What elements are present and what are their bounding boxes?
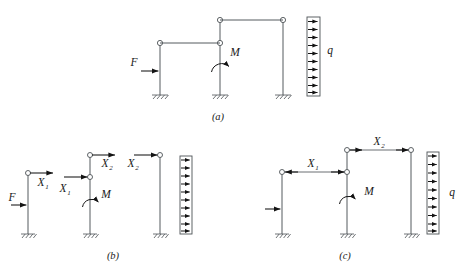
hinge-joint (345, 148, 350, 153)
support-fixed-a2 (212, 95, 229, 99)
label-redundant-X1-middle-panel-b: X 1 (58, 182, 70, 197)
label-moment-M-panel-c: M (363, 185, 375, 197)
support-fixed-c1 (275, 234, 291, 238)
label-redundant-X1-panel-c: X 1 (306, 157, 318, 172)
label-redundant-X2-right-panel-b: X 2 (126, 157, 139, 172)
svg-text:1: 1 (67, 189, 71, 197)
hinge-joint (88, 175, 93, 180)
panel-c (265, 148, 439, 239)
hinge-joint (88, 153, 93, 158)
support-fixed-b2 (83, 234, 99, 238)
hinge-joint (26, 171, 31, 176)
svg-text:X: X (36, 176, 45, 188)
support-fixed-a1 (152, 95, 169, 99)
caption-panel-a: (a) (212, 111, 225, 123)
support-fixed-c2 (340, 234, 356, 238)
panel-c-column-2 (340, 148, 356, 239)
label-load-q-panel-a: q (327, 44, 333, 57)
engineering-figure: F M q (a) F X 1 X 1 X 2 X 2 M (b) X 1 (0, 0, 466, 271)
svg-text:X: X (372, 135, 381, 147)
panel-a-column-middle (212, 17, 229, 99)
support-fixed-a3 (275, 95, 292, 99)
support-fixed-c3 (404, 234, 420, 238)
svg-text:X: X (306, 157, 315, 169)
caption-panel-c: (c) (339, 250, 351, 262)
svg-text:1: 1 (45, 183, 49, 191)
label-redundant-X2-panel-c: X 2 (372, 135, 385, 150)
panel-b-load-q (180, 156, 192, 234)
svg-text:X: X (126, 157, 135, 169)
panel-a-load-q (307, 17, 320, 96)
label-redundant-X2-middle-panel-b: X 2 (100, 157, 113, 172)
panel-a-column-left (152, 40, 169, 99)
svg-text:2: 2 (135, 164, 139, 172)
svg-text:2: 2 (381, 142, 385, 150)
svg-text:2: 2 (109, 164, 113, 172)
support-fixed-b3 (153, 234, 169, 238)
panel-b-column-1 (11, 171, 53, 239)
panel-c-column-3 (404, 148, 420, 239)
hinge-joint (345, 170, 350, 175)
hinge-joint (158, 153, 163, 158)
panel-c-column-1 (265, 170, 291, 239)
hinge-joint (280, 170, 285, 175)
panel-c-load-q (427, 152, 439, 234)
label-force-F-panel-b: F (7, 191, 16, 203)
hinge-joint (409, 148, 414, 153)
panel-b-column-3 (134, 153, 169, 239)
svg-text:X: X (100, 157, 109, 169)
svg-text:1: 1 (315, 164, 319, 172)
label-load-q-panel-c: q (449, 186, 455, 199)
label-moment-M-panel-b: M (100, 188, 112, 200)
label-moment-M-panel-a: M (229, 46, 241, 58)
figure-canvas: F M q (a) F X 1 X 1 X 2 X 2 M (b) X 1 (0, 0, 466, 271)
support-fixed-b1 (21, 234, 37, 238)
label-force-F-panel-a: F (129, 56, 138, 68)
panel-a-column-right (275, 17, 292, 99)
caption-panel-b: (b) (107, 250, 120, 262)
label-redundant-X1-left-panel-b: X 1 (36, 176, 48, 191)
panel-a (141, 17, 320, 99)
svg-text:X: X (58, 182, 67, 194)
